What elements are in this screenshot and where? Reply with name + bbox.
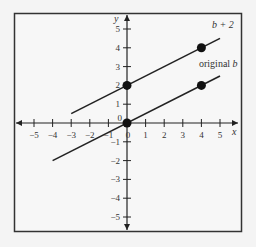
x-axis-label: x (231, 126, 237, 137)
label-original-b: original b (199, 58, 238, 69)
y-tick-label: −2 (110, 156, 120, 166)
x-tick-label: 1 (143, 130, 148, 140)
x-tick-label: 2 (162, 130, 167, 140)
x-tick-label: −5 (29, 130, 39, 140)
y-tick-label: −5 (110, 212, 120, 222)
y-tick-label: 0 (118, 113, 123, 123)
chart: −5−4−3−2−1123450−5−4−3−2−1123450 x y b +… (0, 0, 256, 247)
y-tick-label: −3 (110, 174, 120, 184)
data-point (197, 43, 206, 52)
label-b-plus-2: b + 2 (212, 19, 234, 30)
y-tick-label: −4 (110, 193, 120, 203)
y-axis-label: y (113, 13, 119, 24)
data-point (197, 81, 206, 90)
x-tick-label: −3 (66, 130, 76, 140)
y-tick-label: −1 (110, 137, 120, 147)
y-tick-label: 1 (116, 99, 121, 109)
label-original-text: original (199, 58, 233, 69)
label-original-var: b (233, 58, 238, 69)
x-tick-label: −4 (48, 130, 58, 140)
y-tick-label: 5 (116, 24, 121, 34)
y-tick-label: 3 (116, 62, 121, 72)
x-tick-label: 4 (199, 130, 204, 140)
y-tick-label: 4 (116, 43, 121, 53)
data-point (123, 81, 132, 90)
x-tick-label: 3 (181, 130, 186, 140)
data-point (123, 119, 132, 128)
x-tick-label: −2 (85, 130, 95, 140)
x-tick-label: 0 (126, 130, 131, 140)
x-tick-label: 5 (218, 130, 223, 140)
